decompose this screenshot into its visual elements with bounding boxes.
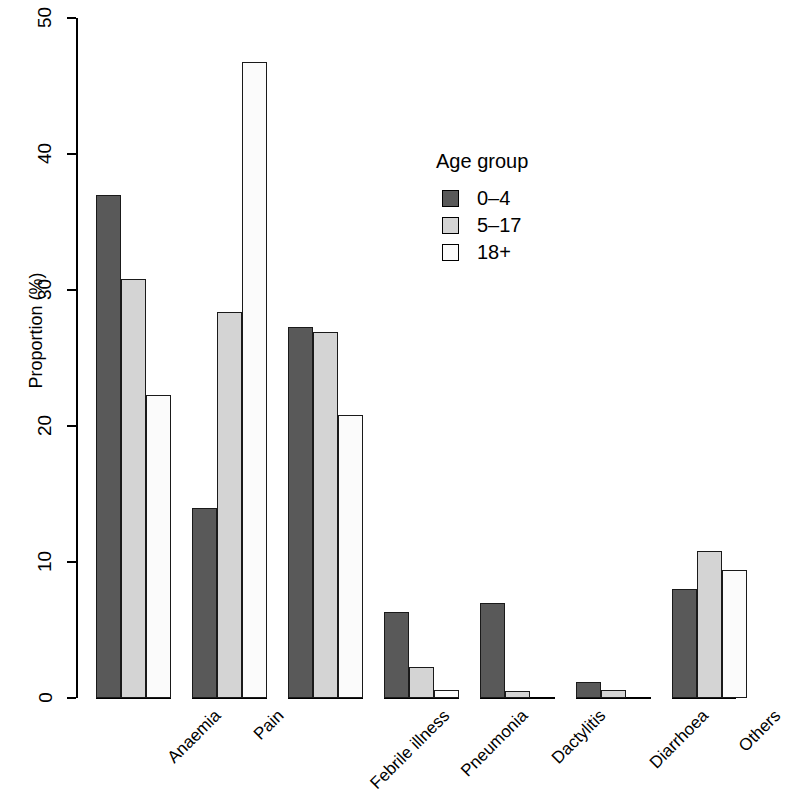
legend-label: 18+ (477, 241, 511, 264)
legend-swatch (442, 217, 459, 234)
bar (288, 327, 313, 698)
bar (480, 603, 505, 698)
y-axis-tick (67, 697, 76, 699)
y-axis-tick (67, 153, 76, 155)
bar (217, 312, 242, 698)
x-axis-tick-label: Febrile illness (366, 706, 454, 793)
legend-entry: 5–17 (432, 212, 528, 239)
x-axis-tick-label: Pain (249, 706, 287, 744)
bar (146, 395, 171, 698)
bar (313, 332, 338, 698)
bar (601, 690, 626, 698)
x-axis-tick-label: Dactylitis (547, 706, 609, 768)
legend-title: Age group (436, 150, 528, 173)
y-axis-tick-label: 10 (30, 552, 60, 571)
y-axis-tick-label: 40 (30, 144, 60, 163)
legend-label: 0–4 (477, 187, 510, 210)
bar (192, 508, 217, 698)
bar (96, 195, 121, 698)
y-axis-tick-label: 50 (30, 8, 60, 27)
legend-entry: 18+ (432, 239, 528, 266)
bar (121, 279, 146, 698)
y-axis-tick-label: 20 (30, 416, 60, 435)
x-axis-tick-label: Pneumonia (457, 706, 532, 781)
bar (384, 612, 409, 698)
bar (576, 682, 601, 698)
y-axis-tick (67, 17, 76, 19)
y-axis-tick-label: 0 (30, 688, 60, 707)
y-axis-title: Proportion (%) (26, 251, 47, 411)
legend-swatch (442, 244, 459, 261)
y-axis-tick (67, 425, 76, 427)
y-axis-line (76, 18, 78, 698)
bar (409, 667, 434, 698)
y-axis-tick (67, 561, 76, 563)
legend-entries: 0–45–1718+ (432, 185, 528, 266)
bar (338, 415, 363, 698)
x-axis-tick-label: Anaemia (163, 706, 225, 768)
legend-entry: 0–4 (432, 185, 528, 212)
x-axis-tick-label: Others (734, 706, 784, 756)
bar (434, 690, 459, 698)
bar (722, 570, 747, 698)
bar (697, 551, 722, 698)
legend-label: 5–17 (477, 214, 522, 237)
legend-swatch (442, 190, 459, 207)
x-axis-tick-label: Diarrhoea (645, 706, 712, 773)
bar (672, 589, 697, 698)
bar (505, 691, 530, 698)
legend: Age group 0–45–1718+ (432, 150, 528, 266)
bar (242, 62, 267, 698)
y-axis-tick (67, 289, 76, 291)
